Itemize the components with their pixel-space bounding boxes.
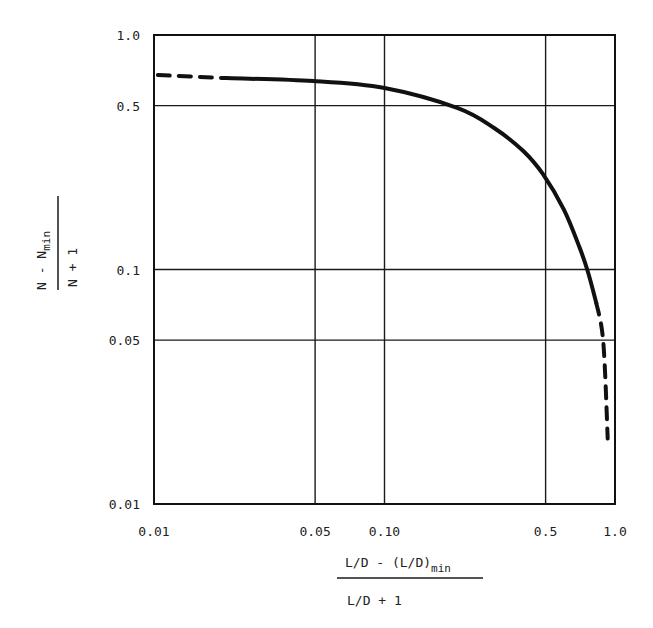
data-curve — [158, 75, 608, 439]
y-axis-label-denominator: N + 1 — [65, 248, 80, 287]
chart: 1.00.50.10.050.01 0.010.050.100.51.0 N -… — [0, 0, 653, 628]
curve-dashed-segment — [596, 303, 607, 439]
x-tick-label: 1.0 — [603, 524, 626, 539]
x-axis-label-denominator: L/D + 1 — [347, 593, 402, 608]
x-tick-label: 0.10 — [369, 524, 400, 539]
y-tick-label: 1.0 — [117, 28, 140, 43]
y-tick-label: 0.5 — [117, 99, 140, 114]
x-axis-label-numerator: L/D - (L/D)min — [345, 555, 451, 575]
y-tick-label: 0.05 — [109, 333, 140, 348]
grid-lines — [154, 35, 615, 504]
x-axis-label: L/D - (L/D)min L/D + 1 — [337, 555, 483, 608]
y-axis-label: N - Nmin N + 1 — [34, 196, 80, 290]
y-tick-label: 0.01 — [109, 497, 140, 512]
y-axis-label-numerator: N - Nmin — [34, 231, 53, 290]
curve-dashed-segment — [158, 75, 226, 78]
x-tick-label: 0.05 — [299, 524, 330, 539]
x-tick-labels: 0.010.050.100.51.0 — [138, 524, 626, 539]
x-tick-label: 0.5 — [534, 524, 557, 539]
x-tick-label: 0.01 — [138, 524, 169, 539]
y-tick-label: 0.1 — [117, 263, 140, 278]
y-tick-labels: 1.00.50.10.050.01 — [109, 28, 140, 512]
